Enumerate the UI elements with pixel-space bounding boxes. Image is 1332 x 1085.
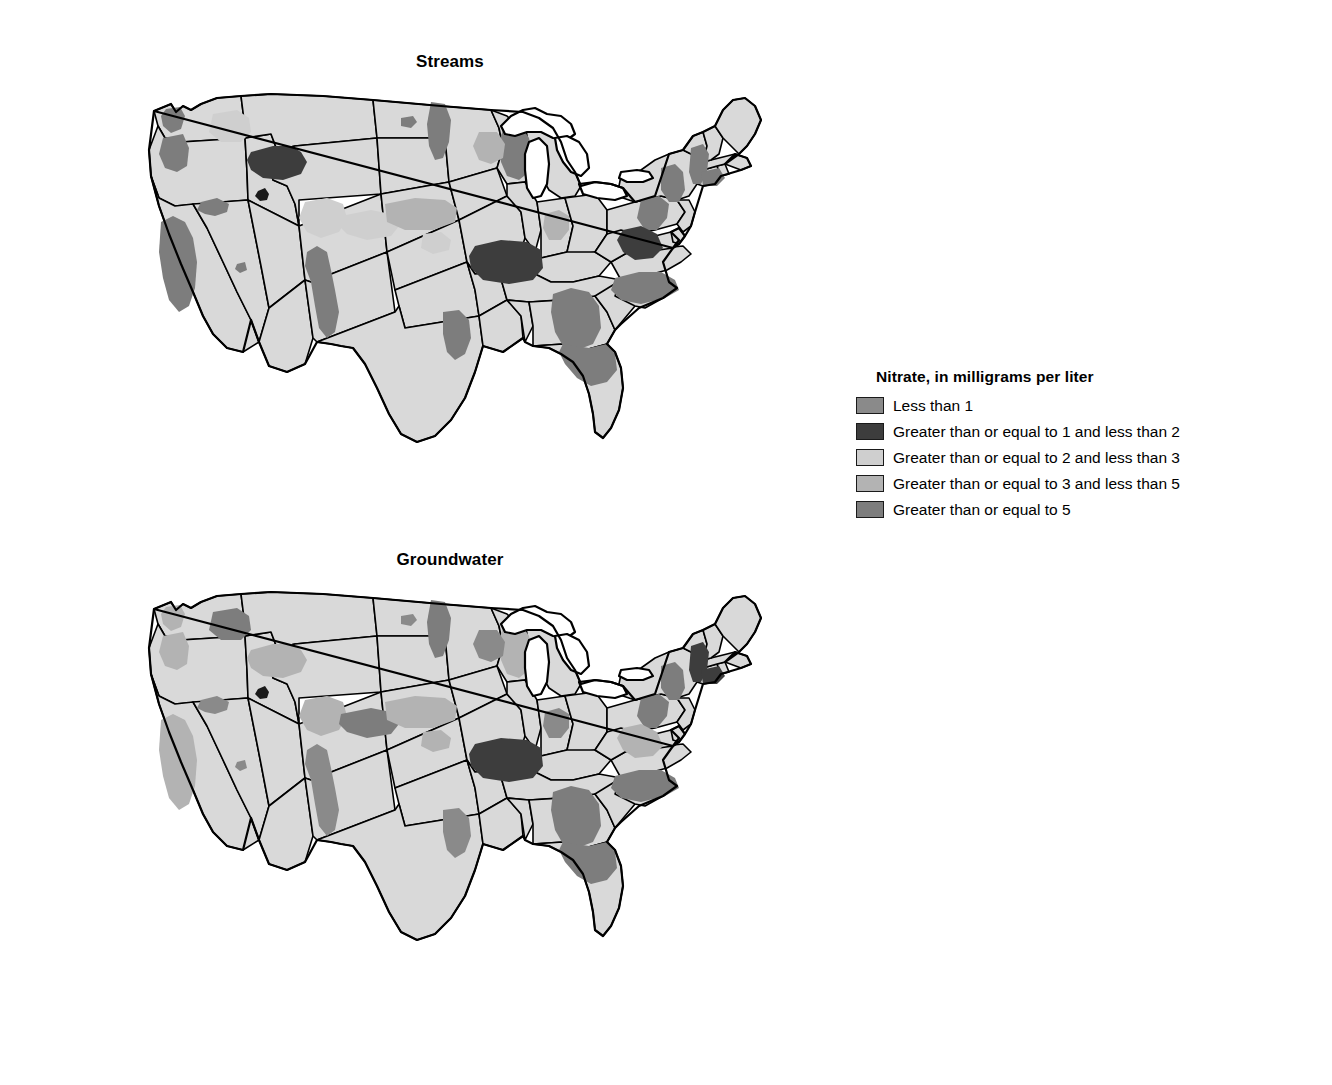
legend-label-ge2lt3: Greater than or equal to 2 and less than… [893,449,1180,466]
unit-albemarle-pamlico [611,272,679,304]
legend-swatch-ge2lt3 [856,449,884,466]
map-panel-streams: Streams [55,50,855,520]
legend-label-ge1lt2: Greater than or equal to 1 and less than… [893,423,1180,440]
legend-label-ge3lt5: Greater than or equal to 3 and less than… [893,475,1180,492]
map-title-streams: Streams [55,50,845,76]
legend-label-lt1: Less than 1 [893,397,973,414]
legend-label-ge5: Greater than or equal to 5 [893,501,1071,518]
legend-item-ge2lt3: Greater than or equal to 2 and less than… [856,444,1326,470]
lake-michigan [525,138,549,198]
legend-swatch-ge5 [856,501,884,518]
legend-item-ge5: Greater than or equal to 5 [856,496,1326,522]
lake-ontario [619,668,653,680]
legend-item-lt1: Less than 1 [856,392,1326,418]
unit-georgia-florida [559,842,617,884]
legend-swatch-ge3lt5 [856,475,884,492]
legend-item-ge1lt2: Greater than or equal to 1 and less than… [856,418,1326,444]
lake-ontario [619,170,653,182]
map-streams [55,76,855,520]
legend-rows: Less than 1 Greater than or equal to 1 a… [856,392,1326,522]
legend-swatch-ge1lt2 [856,423,884,440]
unit-albemarle-pamlico [611,770,679,802]
map-groundwater [55,574,855,1018]
legend-title: Nitrate, in milligrams per liter [876,368,1326,386]
legend-swatch-lt1 [856,397,884,414]
map-title-groundwater: Groundwater [55,548,845,574]
map-panel-groundwater: Groundwater [55,548,855,1018]
map-legend: Nitrate, in milligrams per liter Less th… [856,368,1326,522]
lake-michigan [525,636,549,696]
unit-georgia-florida [559,344,617,386]
legend-item-ge3lt5: Greater than or equal to 3 and less than… [856,470,1326,496]
figure-root: Streams [0,0,1332,1085]
